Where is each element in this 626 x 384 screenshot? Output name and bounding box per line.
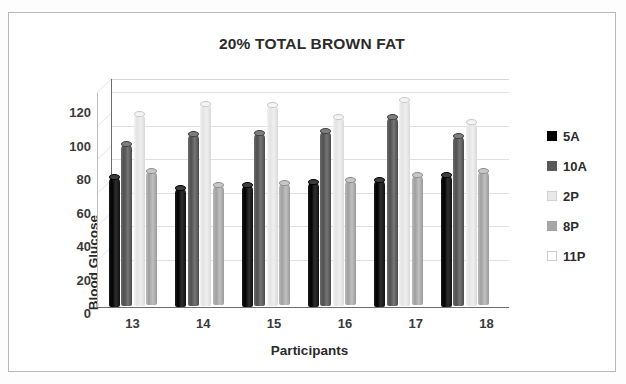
legend-swatch-8P [547,221,557,231]
plot-area [97,79,522,315]
bar-group-15 [242,93,305,307]
bar-group-18 [441,93,504,307]
bar-cap-8P-15 [279,180,290,186]
legend-label-10A: 10A [563,159,587,174]
bar-cap-5A-15 [242,182,253,188]
bar-5A-16[interactable] [308,182,319,307]
y-tick-100: 100 [55,139,91,154]
bar-10A-13[interactable] [121,144,132,306]
bar-cap-2P-14 [200,101,211,107]
bar-2P-15[interactable] [267,105,278,306]
bar-8P-15[interactable] [279,183,290,305]
bar-groups [97,79,522,315]
legend-label-11P: 11P [563,249,585,264]
y-tick-40: 40 [55,239,91,254]
bar-cap-8P-13 [146,168,157,174]
bar-cap-8P-16 [345,177,356,183]
x-tick-16: 16 [309,316,380,338]
bar-cap-10A-13 [121,141,132,147]
bar-cap-2P-15 [267,102,278,108]
bar-cap-2P-18 [466,119,477,125]
bar-10A-15[interactable] [254,133,265,307]
legend-item-10A[interactable]: 10A [547,151,617,181]
legend-item-2P[interactable]: 2P [547,181,617,211]
bar-cap-2P-16 [333,114,344,120]
bar-cap-2P-13 [134,111,145,117]
legend-label-2P: 2P [563,189,579,204]
legend-item-8P[interactable]: 8P [547,211,617,241]
bar-5A-15[interactable] [242,185,253,307]
chart-page: 20% TOTAL BROWN FAT Blood Glucose 120100… [0,0,626,384]
y-axis-title-wrap: Blood Glucose [17,105,39,265]
x-tick-13: 13 [97,316,168,338]
bar-cap-5A-17 [374,177,385,183]
bar-5A-14[interactable] [175,188,186,307]
bar-cap-8P-18 [478,168,489,174]
bar-2P-16[interactable] [333,117,344,306]
bar-group-13 [109,93,172,307]
bar-8P-13[interactable] [146,171,157,305]
bar-group-16 [308,93,371,307]
bar-5A-17[interactable] [374,180,385,307]
x-tick-18: 18 [451,316,522,338]
y-tick-120: 120 [55,105,91,120]
bar-cap-5A-13 [109,174,120,180]
bar-cap-10A-18 [453,133,464,139]
bar-10A-17[interactable] [387,117,398,306]
legend-label-8P: 8P [563,219,579,234]
y-tick-80: 80 [55,172,91,187]
legend-swatch-5A [547,131,557,141]
bar-cap-10A-15 [254,130,265,136]
bar-cap-8P-17 [412,172,423,178]
bar-2P-17[interactable] [399,100,410,306]
bar-8P-18[interactable] [478,171,489,305]
legend-swatch-11P [547,251,557,261]
x-tick-15: 15 [239,316,310,338]
bar-8P-16[interactable] [345,180,356,305]
bar-2P-13[interactable] [134,114,145,306]
bar-cap-5A-18 [441,172,452,178]
x-tick-14: 14 [168,316,239,338]
bar-cap-10A-17 [387,114,398,120]
bar-cap-8P-14 [213,182,224,188]
bar-8P-17[interactable] [412,175,423,305]
bar-5A-18[interactable] [441,175,452,307]
x-axis-title: Participants [97,343,522,358]
legend-label-5A: 5A [563,129,580,144]
y-tick-0: 0 [55,306,91,321]
bar-cap-5A-16 [308,179,319,185]
bar-cap-10A-16 [320,128,331,134]
chart-frame: 20% TOTAL BROWN FAT Blood Glucose 120100… [8,12,616,372]
bar-cap-10A-14 [188,131,199,137]
bar-5A-13[interactable] [109,177,120,307]
legend-swatch-10A [547,161,557,171]
y-tick-20: 20 [55,273,91,288]
bar-8P-14[interactable] [213,185,224,305]
y-axis-tick-labels: 120100806040200 [47,79,91,315]
bar-cap-5A-14 [175,185,186,191]
bar-group-17 [374,93,437,307]
x-tick-17: 17 [380,316,451,338]
bar-2P-18[interactable] [466,122,477,306]
x-axis-tick-labels: 131415161718 [97,316,522,338]
chart-title: 20% TOTAL BROWN FAT [9,35,615,53]
chart-legend: 5A10A2P8P11P [547,121,617,271]
legend-item-11P[interactable]: 11P [547,241,617,271]
bar-10A-14[interactable] [188,134,199,306]
bar-group-14 [175,93,238,307]
legend-item-5A[interactable]: 5A [547,121,617,151]
legend-swatch-2P [547,191,557,201]
bar-2P-14[interactable] [200,104,211,306]
bar-10A-18[interactable] [453,136,464,307]
bar-cap-2P-17 [399,97,410,103]
y-tick-60: 60 [55,206,91,221]
bar-10A-16[interactable] [320,131,331,307]
